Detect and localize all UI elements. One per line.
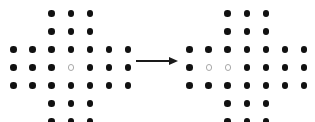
hollow-dot — [206, 64, 212, 70]
filled-dot — [244, 118, 251, 122]
filled-dot — [244, 100, 251, 107]
filled-dot — [48, 10, 55, 17]
filled-dot — [87, 64, 94, 71]
arrow-line — [136, 60, 170, 61]
filled-dot — [29, 46, 36, 53]
filled-dot — [224, 82, 231, 89]
filled-dot — [186, 82, 193, 89]
filled-dot — [125, 64, 132, 71]
dot-pattern-figure — [0, 0, 315, 122]
filled-dot — [68, 100, 75, 107]
filled-dot — [244, 28, 251, 35]
filled-dot — [87, 46, 94, 53]
filled-dot — [282, 64, 289, 71]
filled-dot — [244, 46, 251, 53]
filled-dot — [106, 64, 113, 71]
hollow-dot — [225, 64, 231, 70]
filled-dot — [87, 118, 94, 122]
filled-dot — [301, 82, 308, 89]
filled-dot — [106, 46, 113, 53]
filled-dot — [205, 46, 212, 53]
filled-dot — [224, 46, 231, 53]
filled-dot — [10, 82, 17, 89]
filled-dot — [87, 82, 94, 89]
filled-dot — [68, 46, 75, 53]
filled-dot — [87, 28, 94, 35]
filled-dot — [48, 46, 55, 53]
filled-dot — [244, 10, 251, 17]
filled-dot — [68, 10, 75, 17]
filled-dot — [244, 82, 251, 89]
filled-dot — [87, 100, 94, 107]
filled-dot — [10, 64, 17, 71]
filled-dot — [106, 82, 113, 89]
filled-dot — [263, 46, 270, 53]
filled-dot — [224, 100, 231, 107]
filled-dot — [224, 10, 231, 17]
transformation-arrow — [136, 57, 178, 66]
filled-dot — [125, 82, 132, 89]
filled-dot — [244, 64, 251, 71]
filled-dot — [282, 46, 289, 53]
filled-dot — [48, 64, 55, 71]
filled-dot — [48, 118, 55, 122]
arrow-head-icon — [169, 57, 178, 65]
filled-dot — [263, 100, 270, 107]
filled-dot — [125, 46, 132, 53]
filled-dot — [68, 82, 75, 89]
filled-dot — [68, 28, 75, 35]
filled-dot — [263, 118, 270, 122]
filled-dot — [224, 118, 231, 122]
filled-dot — [263, 28, 270, 35]
filled-dot — [263, 82, 270, 89]
filled-dot — [205, 82, 212, 89]
filled-dot — [10, 46, 17, 53]
filled-dot — [282, 82, 289, 89]
filled-dot — [48, 28, 55, 35]
filled-dot — [263, 10, 270, 17]
filled-dot — [186, 64, 193, 71]
filled-dot — [48, 100, 55, 107]
hollow-dot — [68, 64, 74, 70]
filled-dot — [48, 82, 55, 89]
filled-dot — [263, 64, 270, 71]
filled-dot — [87, 10, 94, 17]
filled-dot — [29, 82, 36, 89]
filled-dot — [301, 64, 308, 71]
filled-dot — [29, 64, 36, 71]
filled-dot — [224, 28, 231, 35]
filled-dot — [186, 46, 193, 53]
filled-dot — [68, 118, 75, 122]
filled-dot — [301, 46, 308, 53]
